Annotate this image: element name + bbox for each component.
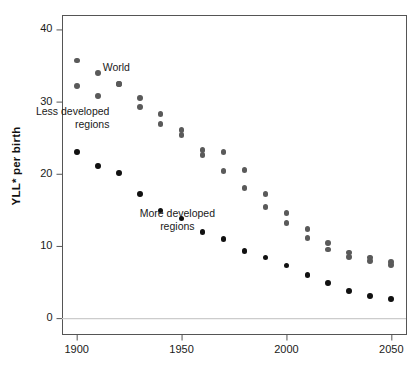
x-tick-label: 1900	[52, 343, 102, 355]
data-point	[74, 149, 80, 155]
data-point	[367, 293, 373, 299]
data-point	[221, 236, 227, 242]
data-point	[284, 210, 290, 216]
data-point	[74, 83, 80, 89]
data-point	[221, 168, 227, 174]
x-tick-label: 2000	[261, 343, 311, 355]
data-point	[95, 163, 101, 169]
data-point	[263, 204, 269, 210]
x-tick-label: 1950	[157, 343, 207, 355]
data-point	[346, 288, 352, 294]
annotation-line: Less developed	[0, 105, 109, 118]
chart-canvas	[0, 0, 420, 371]
y-tick-label: 20	[13, 167, 53, 179]
annotation-line: World	[103, 61, 223, 74]
data-point	[284, 220, 290, 226]
data-point	[116, 170, 122, 176]
data-point	[74, 58, 80, 64]
yll-per-birth-scatter-chart: YLL* per birth 0102030401900195020002050…	[0, 0, 420, 371]
data-point	[95, 70, 101, 76]
data-point	[305, 272, 311, 278]
annotation-line: More developed	[117, 207, 237, 220]
data-point	[263, 191, 269, 197]
data-point	[179, 127, 185, 133]
data-point	[388, 259, 394, 265]
y-tick-label: 0	[13, 311, 53, 323]
annotation-less-developed-regions: Less developedregions	[0, 105, 109, 130]
annotation-line: regions	[117, 220, 237, 233]
data-point	[137, 191, 143, 197]
y-tick-label: 10	[13, 239, 53, 251]
data-point	[179, 132, 185, 138]
data-point	[325, 280, 331, 286]
data-point	[116, 81, 122, 87]
annotation-world: World	[103, 61, 223, 74]
data-point	[137, 95, 143, 101]
annotation-more-developed-regions: More developedregions	[117, 207, 237, 232]
data-point	[305, 235, 311, 241]
x-tick-label: 2050	[366, 343, 416, 355]
data-point	[137, 104, 143, 110]
y-tick-label: 40	[13, 22, 53, 34]
data-point	[95, 93, 101, 99]
annotation-line: regions	[0, 118, 109, 131]
